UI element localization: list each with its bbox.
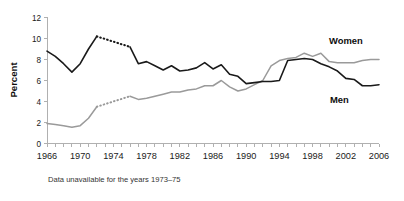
y-tick-label-2: 2	[36, 119, 41, 128]
x-tick-label-1978: 1978	[136, 151, 156, 161]
series-women	[47, 53, 379, 127]
chart-canvas: 024681012 196619701974197819821986199019…	[0, 0, 404, 201]
women-line-interpolated	[97, 96, 130, 107]
chart-footnote: Data unavailable for the years 1973–75	[48, 175, 181, 184]
unemployment-rate-chart: 024681012 196619701974197819821986199019…	[0, 0, 404, 201]
x-axis-ticks	[47, 144, 379, 148]
series-label-women: Women	[329, 35, 363, 46]
x-tick-label-1998: 1998	[302, 151, 322, 161]
x-tick-label-2002: 2002	[336, 151, 356, 161]
y-axis-ticks: 024681012	[32, 14, 47, 149]
y-tick-label-10: 10	[32, 35, 42, 44]
y-tick-label-8: 8	[36, 56, 41, 65]
x-tick-label-1982: 1982	[170, 151, 190, 161]
x-tick-label-1970: 1970	[70, 151, 90, 161]
x-tick-label-1990: 1990	[236, 151, 256, 161]
series-label-men: Men	[330, 94, 349, 105]
y-axis-group: 024681012	[32, 14, 47, 149]
y-tick-label-0: 0	[36, 140, 41, 149]
x-tick-label-1966: 1966	[37, 151, 57, 161]
y-tick-label-6: 6	[36, 77, 41, 86]
x-axis-tick-labels: 1966197019741978198219861990199419982002…	[37, 151, 389, 161]
y-tick-label-4: 4	[36, 98, 41, 107]
y-axis-title: Percent	[8, 62, 19, 98]
men-line-interpolated	[97, 36, 130, 47]
y-tick-label-12: 12	[32, 14, 42, 23]
x-tick-label-1974: 1974	[103, 151, 123, 161]
women-line-early	[47, 107, 97, 127]
women-line-late	[130, 53, 379, 99]
x-tick-label-1986: 1986	[203, 151, 223, 161]
x-tick-label-2006: 2006	[369, 151, 389, 161]
men-line-late	[130, 47, 379, 86]
x-axis-group: 1966197019741978198219861990199419982002…	[37, 144, 389, 161]
x-tick-label-1994: 1994	[269, 151, 289, 161]
men-line-early	[47, 36, 97, 72]
